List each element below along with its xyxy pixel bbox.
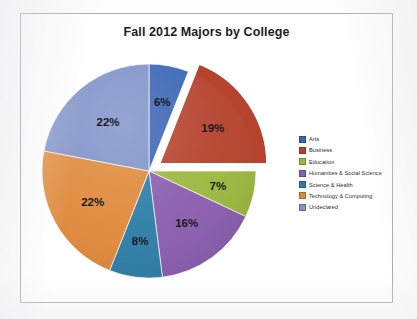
legend-item[interactable]: Undeclared xyxy=(299,202,391,212)
screenshot-root: Fall 2012 Majors by College 6%19%7%16%8%… xyxy=(0,0,417,319)
legend-item-label: Technology & Computing xyxy=(309,193,372,199)
plot-area: 6%19%7%16%8%22%22% xyxy=(29,44,279,292)
legend-item[interactable]: Business xyxy=(299,145,391,155)
legend-swatch-icon xyxy=(299,181,306,188)
legend-item[interactable]: Humanities & Social Science xyxy=(299,168,391,178)
legend-swatch-icon xyxy=(299,204,306,211)
legend: ArtsBusinessEducationHumanities & Social… xyxy=(299,134,391,214)
legend-item[interactable]: Education xyxy=(299,157,391,167)
legend-item[interactable]: Technology & Computing xyxy=(299,191,391,201)
pie-slice-value-label: 8% xyxy=(132,235,149,247)
legend-item-label: Education xyxy=(309,159,334,165)
legend-swatch-icon xyxy=(299,170,306,177)
legend-item-label: Undeclared xyxy=(309,204,338,210)
legend-item-label: Business xyxy=(309,147,332,153)
legend-item-label: Arts xyxy=(309,136,319,142)
chart-frame: Fall 2012 Majors by College 6%19%7%16%8%… xyxy=(20,13,393,303)
pie-slice-value-label: 22% xyxy=(97,116,120,128)
chart-title: Fall 2012 Majors by College xyxy=(21,25,392,39)
legend-item-label: Humanities & Social Science xyxy=(309,170,382,176)
legend-swatch-icon xyxy=(299,147,306,154)
pie-svg: 6%19%7%16%8%22%22% xyxy=(29,44,279,292)
legend-item-label: Science & Health xyxy=(309,182,353,188)
pie-slice-value-label: 7% xyxy=(210,180,227,192)
legend-swatch-icon xyxy=(299,136,306,143)
pie-slice-value-label: 16% xyxy=(175,217,198,229)
legend-item[interactable]: Science & Health xyxy=(299,180,391,190)
pie-slice-value-label: 6% xyxy=(154,96,171,108)
pie-slice-value-label: 22% xyxy=(81,196,104,208)
legend-swatch-icon xyxy=(299,158,306,165)
pie-chart: 6%19%7%16%8%22%22% xyxy=(29,44,279,292)
legend-item[interactable]: Arts xyxy=(299,134,391,144)
legend-swatch-icon xyxy=(299,192,306,199)
pie-slice-value-label: 19% xyxy=(201,122,224,134)
